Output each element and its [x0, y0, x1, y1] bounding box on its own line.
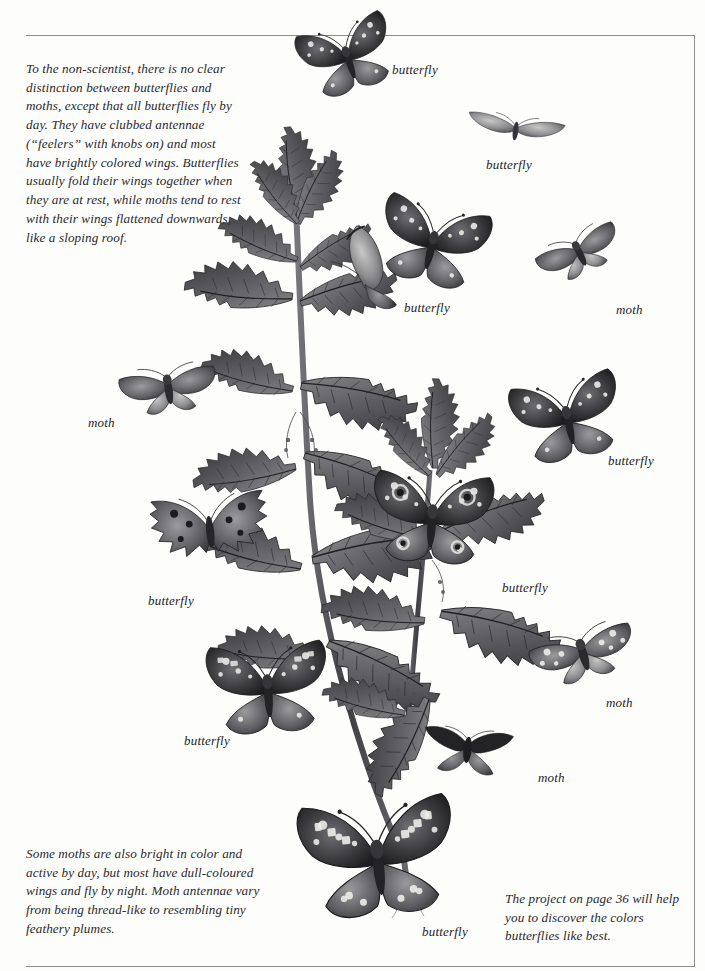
- specimen-caption-butterfly: butterfly: [422, 924, 468, 940]
- specimen-caption-moth: moth: [88, 415, 115, 431]
- frame-rule-bottom: [26, 966, 695, 967]
- specimen-moth-11: [526, 616, 640, 693]
- specimen-caption-butterfly: butterfly: [392, 62, 438, 78]
- specimen-butterfly-2: [466, 109, 565, 147]
- specimen-caption-butterfly: butterfly: [502, 580, 548, 596]
- illustrated-page: To the non-scientist, there is no clear …: [0, 0, 705, 971]
- specimen-butterfly-13: [295, 793, 460, 922]
- specimen-caption-butterfly: butterfly: [486, 157, 532, 173]
- specimen-caption-moth: moth: [538, 770, 565, 786]
- specimen-caption-butterfly: butterfly: [148, 593, 194, 609]
- specimen-butterfly-10: [205, 640, 330, 737]
- frame-rule-top: [26, 35, 695, 36]
- specimen-caption-butterfly: butterfly: [404, 300, 450, 316]
- specimen-moth-12: [421, 724, 514, 777]
- specimen-caption-butterfly: butterfly: [608, 453, 654, 469]
- specimen-caption-butterfly: butterfly: [184, 733, 230, 749]
- specimen-moth-5: [117, 359, 219, 419]
- specimen-butterfly-3: [370, 191, 494, 295]
- specimen-butterfly-1: [292, 9, 402, 104]
- specimen-butterfly-6: [322, 222, 401, 323]
- specimen-moth-4: [532, 216, 627, 291]
- specimen-butterfly-9: [149, 490, 270, 560]
- intro-paragraph: To the non-scientist, there is no clear …: [26, 60, 241, 247]
- frame-rule-right: [694, 35, 695, 966]
- specimen-caption-moth: moth: [616, 302, 643, 318]
- specimen-caption-moth: moth: [606, 695, 633, 711]
- specimen-butterfly-8: [369, 470, 494, 567]
- moth-note-paragraph: Some moths are also bright in color and …: [26, 845, 261, 939]
- project-note-paragraph: The project on page 36 will help you to …: [505, 890, 690, 946]
